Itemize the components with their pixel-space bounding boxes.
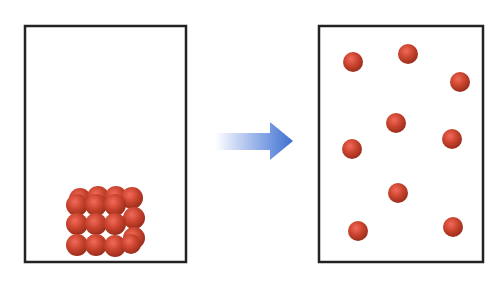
particle [450, 72, 470, 92]
particle [442, 129, 462, 149]
particle [443, 217, 463, 237]
left-container [25, 26, 186, 262]
particle [398, 44, 418, 64]
particle [388, 183, 408, 203]
particle [386, 113, 406, 133]
right-container [319, 26, 483, 262]
particle [343, 52, 363, 72]
packed-particles [66, 186, 145, 257]
particle [342, 139, 362, 159]
diagram-canvas [0, 0, 502, 282]
particle [348, 221, 368, 241]
transition-arrow [215, 122, 293, 160]
